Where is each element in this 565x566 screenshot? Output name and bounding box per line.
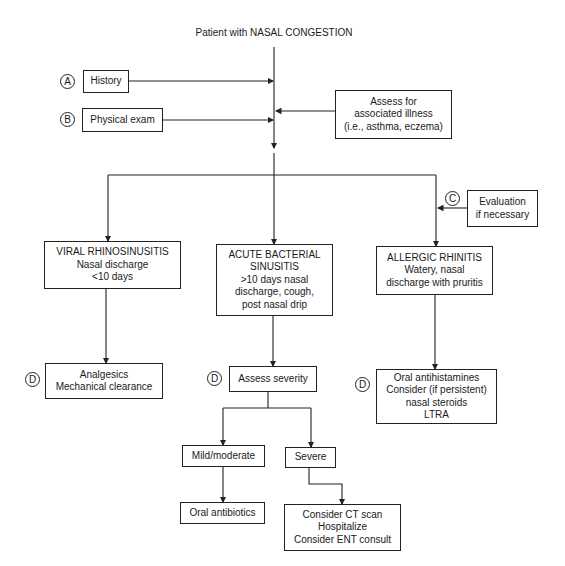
allergic-line: Watery, nasal <box>404 264 464 277</box>
severe-box: Severe <box>285 447 336 468</box>
allergic-treatment-line: Oral antihistamines <box>394 372 480 385</box>
assess-illness-line: associated illness <box>354 108 432 121</box>
assess-illness-line: Assess for <box>370 96 417 109</box>
marker-b: B <box>60 112 75 127</box>
severe-treatment-line: Hospitalize <box>318 521 367 534</box>
evaluation-line: if necessary <box>476 209 529 222</box>
viral-treatment-line: Analgesics <box>80 369 128 382</box>
marker-d-bacterial: D <box>207 371 222 386</box>
mild-moderate-box: Mild/moderate <box>182 445 265 467</box>
oral-antibiotics-label: Oral antibiotics <box>189 507 255 520</box>
mild-moderate-label: Mild/moderate <box>192 450 255 463</box>
viral-treatment-box: Analgesics Mechanical clearance <box>45 363 163 399</box>
bacterial-line: ACUTE BACTERIAL <box>228 249 320 262</box>
viral-line: Nasal discharge <box>77 259 149 272</box>
severe-treatment-box: Consider CT scan Hospitalize Consider EN… <box>284 504 401 551</box>
allergic-treatment-line: nasal steroids <box>406 397 468 410</box>
marker-d-viral: D <box>25 372 40 387</box>
oral-antibiotics-box: Oral antibiotics <box>180 502 265 524</box>
allergic-treatment-line: Consider (if persistent) <box>386 384 487 397</box>
bacterial-line: >10 days nasal <box>241 274 309 287</box>
marker-c: C <box>445 191 460 206</box>
physical-exam-box: Physical exam <box>82 108 163 132</box>
acute-bacterial-sinusitis-box: ACUTE BACTERIAL SINUSITIS >10 days nasal… <box>216 244 333 316</box>
allergic-treatment-box: Oral antihistamines Consider (if persist… <box>376 369 497 424</box>
viral-treatment-line: Mechanical clearance <box>56 381 153 394</box>
flowchart-title: Patient with NASAL CONGESTION <box>174 27 374 38</box>
allergic-rhinitis-box: ALLERGIC RHINITIS Watery, nasal discharg… <box>376 246 493 295</box>
severe-treatment-line: Consider ENT consult <box>294 534 391 547</box>
assess-severity-box: Assess severity <box>229 366 317 392</box>
viral-rhinosinusitis-box: VIRAL RHINOSINUSITIS Nasal discharge <10… <box>44 241 181 289</box>
evaluation-line: Evaluation <box>479 196 526 209</box>
marker-a: A <box>60 74 75 89</box>
severe-label: Severe <box>295 451 327 464</box>
evaluation-box: Evaluation if necessary <box>467 190 538 227</box>
allergic-line: ALLERGIC RHINITIS <box>387 252 482 265</box>
history-box: History <box>83 70 129 93</box>
allergic-treatment-line: LTRA <box>424 409 449 422</box>
severe-treatment-line: Consider CT scan <box>303 509 383 522</box>
physical-exam-label: Physical exam <box>90 114 154 127</box>
assess-severity-label: Assess severity <box>238 373 307 386</box>
marker-d-allergic: D <box>355 377 370 392</box>
assess-illness-line: (i.e., asthma, eczema) <box>344 121 443 134</box>
allergic-line: discharge with pruritis <box>386 277 483 290</box>
bacterial-line: discharge, cough, <box>235 286 314 299</box>
bacterial-line: post nasal drip <box>242 299 307 312</box>
assess-illness-box: Assess for associated illness (i.e., ast… <box>335 90 452 139</box>
bacterial-line: SINUSITIS <box>250 261 299 274</box>
history-label: History <box>90 75 121 88</box>
viral-line: <10 days <box>92 271 133 284</box>
viral-line: VIRAL RHINOSINUSITIS <box>56 246 168 259</box>
